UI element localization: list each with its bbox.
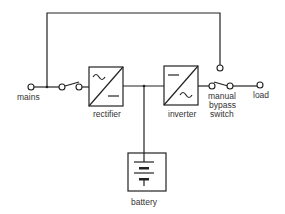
label-mains: mains — [17, 92, 40, 102]
battery-cell-icon — [139, 167, 149, 170]
battery-block — [128, 153, 166, 191]
rectifier-block — [89, 67, 123, 106]
load-terminal — [257, 82, 263, 88]
mains-terminal — [28, 84, 59, 90]
label-inverter: inverter — [168, 109, 197, 119]
label-switch-line3: switch — [210, 109, 234, 119]
junction-dot-mains — [46, 86, 49, 89]
dc-bus — [123, 85, 164, 153]
label-battery: battery — [131, 197, 158, 207]
manual-bypass-switch — [209, 65, 257, 89]
input-switch — [59, 82, 89, 90]
inverter-block — [164, 66, 209, 105]
ups-diagram: mains rectifier inverter manual bypass s… — [0, 0, 285, 214]
label-rectifier: rectifier — [93, 109, 121, 119]
label-load: load — [253, 90, 269, 100]
